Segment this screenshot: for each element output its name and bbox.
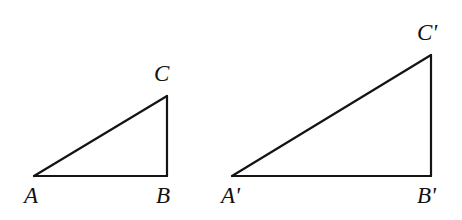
vertex-label-b-prime: B' [417, 184, 436, 207]
vertex-label-b: B [156, 184, 170, 207]
triangle-abc [34, 96, 167, 176]
vertex-label-c-prime: C' [417, 21, 437, 44]
edge-cp-ap [232, 55, 431, 176]
vertex-label-a-prime: A' [221, 184, 240, 207]
triangle-a-prime-b-prime-c-prime [232, 55, 431, 176]
edge-ca [34, 96, 167, 176]
geometry-figure: A B C A' B' C' [0, 0, 462, 220]
vertex-label-c: C [154, 62, 169, 85]
vertex-label-a: A [24, 184, 38, 207]
